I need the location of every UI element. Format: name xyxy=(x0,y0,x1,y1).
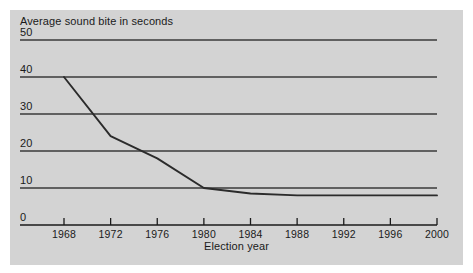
data-series-line xyxy=(64,77,437,195)
y-axis-tick-label: 20 xyxy=(20,137,33,149)
x-axis-tick-label: 1980 xyxy=(192,228,216,240)
x-axis-tick-label: 1968 xyxy=(52,228,76,240)
chart-figure: Average sound bite in seconds 0102030405… xyxy=(0,0,473,273)
y-axis-tick-label: 30 xyxy=(20,100,33,112)
x-axis-tick-label: 2000 xyxy=(425,228,449,240)
y-axis-tick-label: 40 xyxy=(20,63,33,75)
x-axis-tick-label: 1992 xyxy=(332,228,356,240)
x-axis-tick-label: 1996 xyxy=(378,228,402,240)
y-axis-tick-label: 0 xyxy=(20,211,26,223)
y-axis-tick-label: 50 xyxy=(20,26,33,38)
xtick-group xyxy=(64,218,437,225)
x-axis-tick-label: 1988 xyxy=(285,228,309,240)
x-axis-tick-label: 1984 xyxy=(238,228,262,240)
x-axis-tick-label: 1972 xyxy=(99,228,123,240)
y-axis-tick-label: 10 xyxy=(20,174,33,186)
x-axis-title: Election year xyxy=(0,240,473,252)
x-axis-tick-label: 1976 xyxy=(145,228,169,240)
gridline-group xyxy=(20,40,437,188)
